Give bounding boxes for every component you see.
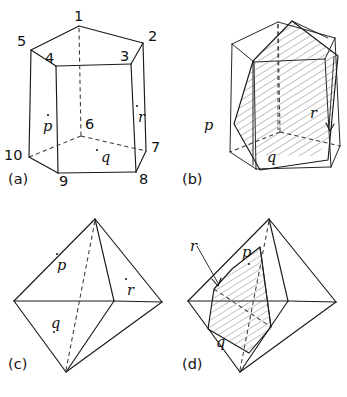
oct-c-edge-bottom-right xyxy=(66,302,162,372)
edge-5-1 xyxy=(31,26,79,50)
edge-3-4 xyxy=(56,64,131,66)
edge-5-10 xyxy=(29,50,31,157)
edge-2-3 xyxy=(131,43,143,64)
vertex-label-6: 6 xyxy=(85,117,94,132)
panel-caption-a: (a) xyxy=(8,172,28,187)
edge-7-8 xyxy=(136,151,146,172)
vertex-label-4: 4 xyxy=(45,51,54,66)
cut-plane-b-hatching xyxy=(234,21,338,170)
vertex-label-8: 8 xyxy=(139,172,148,187)
edge-4-9 xyxy=(56,66,58,173)
vertex-label-1: 1 xyxy=(74,9,83,24)
prism-b-top-edge-left xyxy=(232,22,278,44)
prism-b-vert-left xyxy=(230,44,232,152)
face-label-r-b: r xyxy=(310,106,317,121)
edge-1-6-hidden xyxy=(79,28,81,136)
face-label-q-d: q xyxy=(216,335,225,350)
face-label-r-c: r xyxy=(127,283,134,298)
face-label-q-b: q xyxy=(267,150,276,165)
face-label-p-a: p xyxy=(43,119,52,134)
leader-line-r-d xyxy=(197,246,218,283)
panel-caption-c: (c) xyxy=(8,357,27,372)
vertex-label-3: 3 xyxy=(120,49,129,64)
panel-caption-b: (b) xyxy=(182,172,203,187)
edge-3-8 xyxy=(131,64,136,172)
panel-b-drawing xyxy=(174,0,347,200)
vertex-label-7: 7 xyxy=(151,140,160,155)
face-label-r-a: r xyxy=(138,110,145,125)
face-label-r-d: r xyxy=(190,239,197,254)
face-label-p-b: p xyxy=(204,118,213,133)
vertex-label-10: 10 xyxy=(4,148,22,163)
edge-9-10 xyxy=(29,157,58,173)
edge-6-10-hidden xyxy=(29,136,81,157)
vertex-label-9: 9 xyxy=(59,174,68,189)
prism-b-top-edge-ll xyxy=(232,44,254,62)
edge-6-7-hidden xyxy=(81,136,146,151)
oct-c-edge-bottom-front xyxy=(66,301,114,372)
edge-8-9 xyxy=(58,172,136,173)
oct-d-equator-right xyxy=(288,301,336,302)
prism-b-bottom-rr xyxy=(331,146,340,167)
face-label-p-d: p xyxy=(242,245,251,260)
face-label-p-c: p xyxy=(57,258,66,273)
figure-root: 1 2 3 4 5 6 7 8 9 10 p q r (a) xyxy=(0,0,347,397)
vertex-label-5: 5 xyxy=(17,34,26,49)
face-label-q-a: q xyxy=(101,150,110,165)
edge-2-7 xyxy=(143,43,146,151)
face-label-q-c: q xyxy=(51,316,60,331)
oct-c-equator-right xyxy=(114,301,162,302)
edge-1-2 xyxy=(79,26,143,43)
oct-c-edge-top-left xyxy=(14,219,95,301)
panel-caption-d: (d) xyxy=(182,357,203,372)
vertex-label-2: 2 xyxy=(148,29,157,44)
